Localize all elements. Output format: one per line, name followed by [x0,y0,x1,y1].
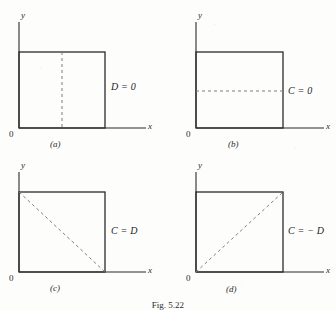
figure-container: y x 0 D = 0 (a) y x 0 C = 0 (b) y x 0 C … [0,0,336,310]
origin-label: 0 [186,130,191,139]
panel-caption: (b) [228,140,239,149]
x-axis-label: x [326,122,330,131]
boundary-condition-label: C = D [111,226,138,236]
origin-label: 0 [186,274,191,283]
panel-a-diagram [0,0,168,155]
panel-c: y x 0 C = D (c) [0,152,168,307]
panel-caption: (d) [226,285,237,294]
y-axis-label: y [21,11,25,20]
dashed-diagonal [196,192,283,272]
origin-label: 0 [9,130,14,139]
square-boundary [196,52,283,128]
x-axis-label: x [148,266,152,275]
panel-caption: (c) [50,284,60,293]
y-axis-label: y [198,161,202,170]
y-axis-label: y [21,161,25,170]
dashed-diagonal [19,192,105,272]
panel-b-diagram [168,0,336,155]
panel-a: y x 0 D = 0 (a) [0,0,168,155]
origin-label: 0 [9,274,14,283]
panel-caption: (a) [50,140,61,149]
boundary-condition-label: D = 0 [111,82,136,92]
panel-b: y x 0 C = 0 (b) [168,0,336,155]
panel-c-diagram [0,152,168,310]
boundary-condition-label: C = − D [288,226,324,236]
x-axis-label: x [326,266,330,275]
figure-caption: Fig. 5.22 [0,300,336,310]
panel-d: y x 0 C = − D (d) [168,152,336,307]
boundary-condition-label: C = 0 [288,86,312,96]
y-axis-label: y [198,11,202,20]
x-axis-label: x [148,122,152,131]
